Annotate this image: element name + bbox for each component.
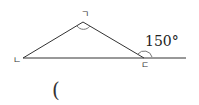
side-top-right [83, 22, 144, 58]
vertex-label-top: ㄱ [81, 10, 89, 19]
triangle-diagram [0, 0, 199, 105]
side-top-left [23, 22, 83, 58]
vertex-label-left: ㄴ [13, 56, 21, 65]
angle-arc-top [77, 26, 90, 29]
vertex-label-right: ㄷ [141, 61, 149, 70]
exterior-angle-value: 150° [145, 34, 179, 48]
answer-blank: ( [52, 80, 60, 100]
